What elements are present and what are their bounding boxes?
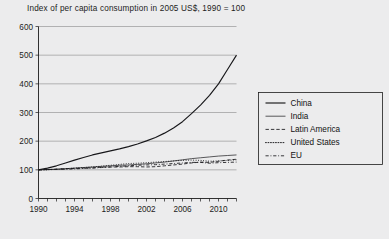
- x-tick-label: 1990: [29, 205, 48, 214]
- y-tick-label: 500: [19, 51, 33, 60]
- y-tick-label: 100: [19, 166, 33, 175]
- y-tick-label: 300: [19, 109, 33, 118]
- legend-label-india: India: [291, 112, 309, 121]
- x-tick-label: 2010: [209, 205, 228, 214]
- y-tick-label: 600: [19, 23, 33, 32]
- chart-figure: Index of per capita consumption in 2005 …: [0, 0, 389, 239]
- legend-label-latin-america: Latin America: [291, 125, 341, 134]
- line-chart-plot: 0100200300400500600 19901994199820022006…: [0, 0, 389, 239]
- legend-label-eu: EU: [291, 151, 302, 160]
- x-tick-label: 1998: [101, 205, 120, 214]
- x-tick-label: 1994: [65, 205, 84, 214]
- x-tick-label: 2006: [173, 205, 192, 214]
- x-axis-tick-labels: 199019941998200220062010: [29, 199, 236, 215]
- x-tick-label: 2002: [137, 205, 156, 214]
- y-axis-tick-labels: 0100200300400500600: [19, 23, 38, 204]
- y-tick-label: 400: [19, 80, 33, 89]
- legend-label-china: China: [291, 99, 313, 108]
- y-tick-label: 200: [19, 137, 33, 146]
- chart-legend: ChinaIndiaLatin AmericaUnited StatesEU: [259, 93, 383, 165]
- legend-label-united-states: United States: [291, 138, 340, 147]
- y-tick-label: 0: [28, 195, 33, 204]
